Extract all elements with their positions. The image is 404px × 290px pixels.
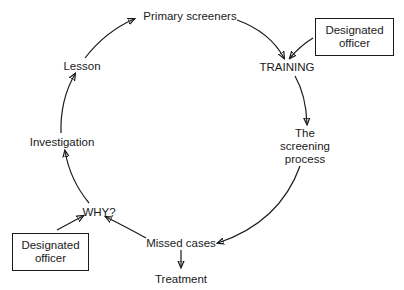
arrow-why-to-investigation (65, 151, 89, 203)
box-designated-officer-top-line1: Designated (325, 24, 383, 37)
arrow-missed-cases-to-why (106, 217, 146, 238)
node-lesson: Lesson (62, 60, 102, 73)
box-designated-officer-bottom-line2: officer (35, 252, 66, 265)
arrow-officer-to-training (290, 38, 313, 58)
node-treatment: Treatment (150, 273, 212, 286)
arrow-training-to-screening (295, 76, 307, 124)
arrow-investigation-to-lesson (61, 74, 75, 133)
node-screening-process-line3: process (270, 153, 340, 166)
box-designated-officer-bottom-line1: Designated (21, 239, 79, 252)
node-training: TRAINING (259, 61, 315, 74)
node-screening-process-line2: screening (270, 140, 340, 153)
box-designated-officer-top-line2: officer (339, 37, 370, 50)
node-screening-process-line1: The (270, 127, 340, 140)
node-primary-screeners: Primary screeners (140, 10, 240, 23)
box-designated-officer-bottom: Designated officer (12, 233, 89, 271)
node-screening-process: The screening process (270, 127, 340, 166)
box-designated-officer-top: Designated officer (315, 18, 394, 56)
arrow-lesson-to-primary-screeners (85, 19, 134, 58)
node-missed-cases: Missed cases (143, 237, 219, 250)
node-why: WHY? (82, 206, 116, 219)
arrow-primary-screeners-to-training (237, 20, 284, 58)
arrow-officer-to-why (57, 216, 83, 230)
arrow-screening-to-missed-cases (218, 166, 300, 243)
screening-cycle-diagram: Primary screeners TRAINING Designated of… (0, 0, 404, 290)
node-investigation: Investigation (27, 136, 97, 149)
